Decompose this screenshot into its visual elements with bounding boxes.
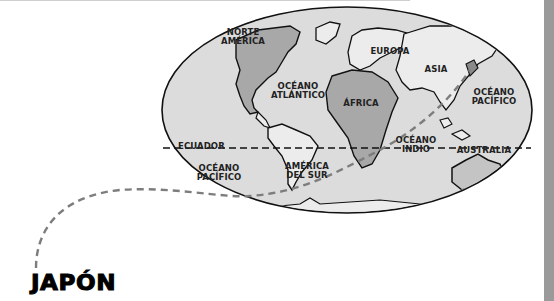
label-south-america: AMÉRICA DEL SUR bbox=[282, 162, 332, 180]
label-north-america: NORTE AMÉRICA bbox=[218, 28, 268, 46]
label-line: INDIO bbox=[391, 145, 441, 154]
page-edge-bar bbox=[544, 0, 554, 301]
label-asia: ASIA bbox=[421, 65, 451, 74]
label-pacific-ocean-east: OCÉANO PACÍFICO bbox=[468, 88, 520, 106]
japan-title-label: JAPÓN bbox=[31, 270, 116, 295]
label-indian-ocean: OCÉANO INDIO bbox=[391, 136, 441, 154]
label-pacific-ocean-west: OCÉANO PACÍFICO bbox=[194, 164, 244, 182]
label-africa: ÁFRICA bbox=[340, 99, 382, 108]
label-line: PACÍFICO bbox=[194, 173, 244, 182]
label-atlantic-ocean: OCÉANO ATLÁNTICO bbox=[268, 82, 328, 100]
label-line: ATLÁNTICO bbox=[268, 91, 328, 100]
label-europe: EUROPA bbox=[367, 47, 413, 56]
label-line: AMÉRICA bbox=[218, 37, 268, 46]
label-line: PACÍFICO bbox=[468, 97, 520, 106]
label-australia: AUSTRALIA bbox=[456, 146, 512, 155]
label-equator: ECUADOR bbox=[178, 142, 228, 151]
label-line: DEL SUR bbox=[282, 171, 332, 180]
map-page: NORTE AMÉRICA OCÉANO ATLÁNTICO EUROPA AS… bbox=[0, 0, 554, 301]
